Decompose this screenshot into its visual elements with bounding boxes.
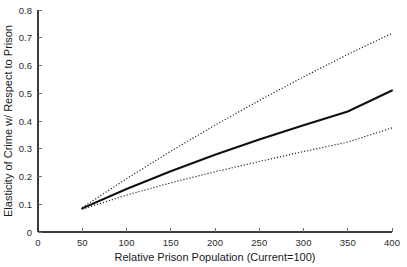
x-tick-label: 300 xyxy=(296,237,312,248)
y-axis: 00.10.20.30.40.50.60.70.8 xyxy=(19,5,42,238)
x-tick-label: 350 xyxy=(340,237,356,248)
x-tick-label: 100 xyxy=(119,237,135,248)
x-axis-title: Relative Prison Population (Current=100) xyxy=(115,251,316,263)
series-line xyxy=(82,90,392,208)
chart-canvas: 050100150200250300350400 00.10.20.30.40.… xyxy=(0,0,407,267)
x-tick-label: 400 xyxy=(384,237,400,248)
y-tick-label: 0.1 xyxy=(19,199,32,210)
x-axis: 050100150200250300350400 xyxy=(35,228,400,248)
x-tick-label: 250 xyxy=(251,237,267,248)
chart-figure: 050100150200250300350400 00.10.20.30.40.… xyxy=(0,0,407,267)
y-tick-label: 0.8 xyxy=(19,5,32,16)
y-tick-label: 0.7 xyxy=(19,32,32,43)
x-tick-label: 0 xyxy=(35,237,40,248)
y-tick-label: 0 xyxy=(27,227,32,238)
y-tick-label: 0.2 xyxy=(19,171,32,182)
series-line xyxy=(82,128,392,209)
x-tick-label: 200 xyxy=(207,237,223,248)
x-tick-label: 50 xyxy=(77,237,88,248)
x-tick-label: 150 xyxy=(163,237,179,248)
series-line xyxy=(82,33,392,207)
y-tick-label: 0.3 xyxy=(19,143,32,154)
y-tick-label: 0.6 xyxy=(19,60,32,71)
y-tick-label: 0.5 xyxy=(19,88,32,99)
y-axis-title: Elasticity of Crime w/ Respect to Prison xyxy=(2,25,14,217)
y-tick-label: 0.4 xyxy=(19,116,32,127)
series-group xyxy=(82,33,392,209)
